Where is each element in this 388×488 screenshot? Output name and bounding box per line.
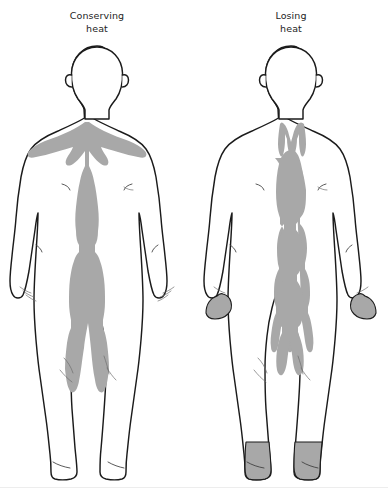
body-figure-losing-heat bbox=[194, 38, 388, 488]
body-figure-conserving-heat bbox=[0, 38, 194, 488]
panel-caption-losing-heat: Losing heat bbox=[275, 10, 306, 35]
panel-conserving-heat: Conserving heat bbox=[0, 0, 194, 488]
heat-zone-feet-losing bbox=[245, 442, 322, 480]
panel-losing-heat: Losing heat bbox=[194, 0, 388, 488]
thermoregulation-figure-board: Conserving heat bbox=[0, 0, 388, 488]
head-and-neck-shape bbox=[260, 47, 323, 119]
head-and-neck-shape bbox=[66, 47, 129, 119]
panel-caption-conserving-heat: Conserving heat bbox=[70, 10, 124, 35]
